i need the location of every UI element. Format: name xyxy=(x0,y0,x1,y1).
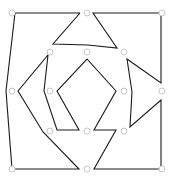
n-upper-left-inner-node-icon[interactable] xyxy=(47,49,53,55)
top-left-frame-edge xyxy=(6,13,161,169)
edges-group xyxy=(6,13,161,169)
n-top-right-node-icon[interactable] xyxy=(159,10,165,16)
n-top-center-node-icon[interactable] xyxy=(84,10,90,16)
n-mid-left-node-icon[interactable] xyxy=(9,88,15,94)
n-upper-right-inner-node-icon[interactable] xyxy=(121,49,127,55)
n-upper-center-node-icon[interactable] xyxy=(84,49,90,55)
n-mid-right-node-icon[interactable] xyxy=(159,88,165,94)
n-lower-right-inner-node-icon[interactable] xyxy=(121,128,127,134)
n-top-left-node-icon[interactable] xyxy=(9,10,15,16)
n-lower-left-inner-node-icon[interactable] xyxy=(47,128,53,134)
diagram-canvas xyxy=(0,0,169,184)
n-mid-right-inner-node-icon[interactable] xyxy=(121,88,127,94)
n-lower-center-node-icon[interactable] xyxy=(84,128,90,134)
n-bottom-center-node-icon[interactable] xyxy=(84,166,90,172)
n-mid-left-inner-node-icon[interactable] xyxy=(47,88,53,94)
n-bottom-right-node-icon[interactable] xyxy=(159,166,165,172)
n-bottom-left-node-icon[interactable] xyxy=(9,166,15,172)
nodes-group xyxy=(9,10,165,172)
